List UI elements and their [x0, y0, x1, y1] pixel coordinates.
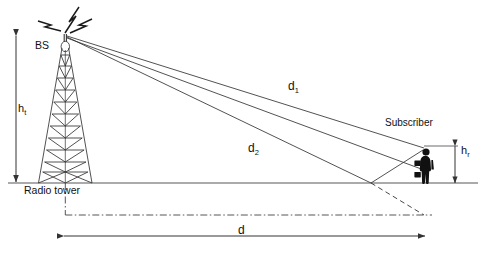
image-ray-dashed: [371, 183, 424, 215]
projection-baseline: [65, 183, 432, 215]
reflected-path-label: d2: [248, 142, 259, 157]
reflected-path-subscript: 2: [255, 148, 259, 157]
radiation-waves-icon: [38, 7, 92, 33]
receiver-height-subscript: r: [467, 150, 470, 159]
tower-height-label: ht: [18, 103, 26, 117]
direct-path-label: d1: [288, 80, 299, 95]
lower-ray: [67, 38, 424, 170]
reflected-path-symbol: d: [248, 141, 255, 155]
receiver-height-label: hr: [461, 145, 470, 159]
direct-path-symbol: d: [288, 79, 295, 93]
subscriber-label: Subscriber: [385, 118, 433, 128]
propagation-rays: [67, 36, 424, 183]
diagram-vector: [0, 0, 483, 257]
radio-tower-label: Radio tower: [24, 185, 80, 196]
lattice-tower-icon: [39, 34, 93, 183]
direct-ray-d1: [67, 36, 424, 148]
direct-path-subscript: 1: [295, 86, 299, 95]
tower-height-subscript: t: [24, 108, 26, 117]
reflected-ray-incident: [67, 37, 371, 183]
separation-label: d: [238, 224, 245, 236]
diagram-canvas: BS Radio tower Subscriber ht hr d1 d2 d: [0, 0, 483, 257]
bs-label: BS: [35, 40, 49, 51]
